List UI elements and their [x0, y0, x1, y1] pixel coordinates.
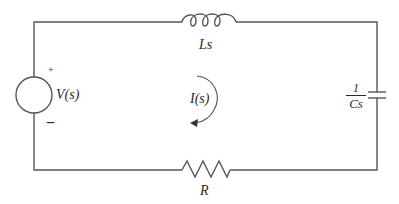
- capacitor-label: 1 Cs: [346, 82, 366, 110]
- inductor-label: Ls: [199, 38, 212, 52]
- voltage-source-icon: [16, 77, 52, 113]
- capacitor-label-numerator: 1: [346, 82, 366, 94]
- source-plus-sign: +: [48, 65, 54, 75]
- current-arrowhead-icon: [190, 119, 198, 127]
- wire-top-left: [34, 22, 182, 77]
- source-minus-sign: −: [46, 115, 55, 131]
- resistor-icon: [182, 161, 230, 177]
- wire-bottom-left: [34, 113, 182, 170]
- inductor-icon: [182, 14, 236, 26]
- current-label: I(s): [190, 92, 209, 106]
- source-label: V(s): [56, 88, 79, 102]
- capacitor-label-denominator: Cs: [346, 97, 366, 110]
- resistor-label: R: [200, 184, 209, 198]
